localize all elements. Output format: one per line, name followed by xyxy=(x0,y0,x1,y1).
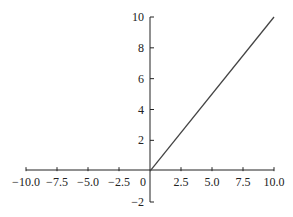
y-tick-label: 10 xyxy=(132,10,144,24)
y-tick-label: 8 xyxy=(138,41,144,55)
x-tick-label: 2.5 xyxy=(174,175,189,189)
x-axis: −10.0−7.5−5.0−2.502.55.07.510.0 xyxy=(12,167,284,189)
chart: −10.0−7.5−5.0−2.502.55.07.510.0 −2246810 xyxy=(0,0,293,217)
x-tick-label: 10.0 xyxy=(264,175,285,189)
x-tick-label: −2.5 xyxy=(108,175,130,189)
y-tick-label: 2 xyxy=(138,133,144,147)
y-tick-label: −2 xyxy=(131,195,144,209)
x-tick-label: −5.0 xyxy=(77,175,99,189)
y-tick-label: 6 xyxy=(138,72,144,86)
series-line xyxy=(150,17,274,171)
x-tick-label: 0 xyxy=(140,175,146,189)
x-tick-label: 5.0 xyxy=(205,175,220,189)
y-tick-label: 4 xyxy=(138,103,144,117)
x-tick-label: 7.5 xyxy=(236,175,251,189)
x-tick-label: −10.0 xyxy=(12,175,40,189)
x-tick-label: −7.5 xyxy=(46,175,68,189)
